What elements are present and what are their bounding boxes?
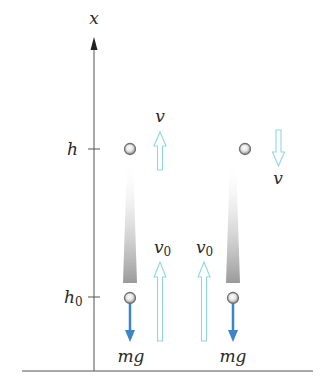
v0-label-right: v0 [196,237,213,259]
projectile-diagram: x h h0 mg mg v v v0 v0 [0,0,324,389]
gravity-arrow-right [228,304,238,342]
velocity-arrow-v0-left [154,262,166,341]
velocity-arrow-down-v [273,130,285,166]
v0-label-left: v0 [154,237,171,259]
motion-trail-left [123,160,137,283]
x-axis-label: x [89,8,99,28]
ball-right-top [240,144,251,155]
ball-right-bottom [228,293,239,304]
tick-label-h: h [67,139,78,159]
mg-label-left: mg [117,346,144,366]
v-label-down: v [273,168,283,188]
ball-left-bottom [125,293,136,304]
motion-trail-right [226,160,240,283]
tick-label-h0: h0 [64,287,83,309]
v-label-up: v [155,106,165,126]
velocity-arrow-v0-right [198,262,210,341]
gravity-arrow-left [125,304,135,342]
velocity-arrow-up-v [154,132,166,170]
ball-left-top [125,144,136,155]
x-axis-arrowhead [91,37,98,50]
mg-label-right: mg [219,346,246,366]
